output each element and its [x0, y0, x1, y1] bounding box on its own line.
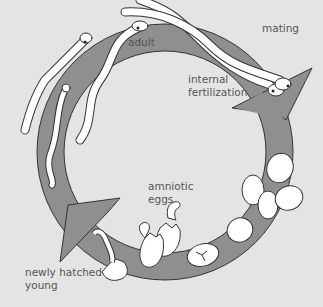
- label-adult: adult: [128, 36, 155, 49]
- label-newly-hatched-line1: newly hatched: [25, 266, 102, 279]
- label-newly-hatched-line2: young: [25, 279, 58, 292]
- label-mating: mating: [262, 22, 299, 35]
- label-internal-fertilization-line2: fertilization: [188, 86, 247, 99]
- label-amniotic-eggs-line1: amniotic: [148, 180, 193, 193]
- label-internal-fertilization-line1: internal: [188, 73, 228, 86]
- label-amniotic-eggs-line2: eggs: [148, 193, 173, 206]
- life-cycle-diagram: [0, 0, 323, 307]
